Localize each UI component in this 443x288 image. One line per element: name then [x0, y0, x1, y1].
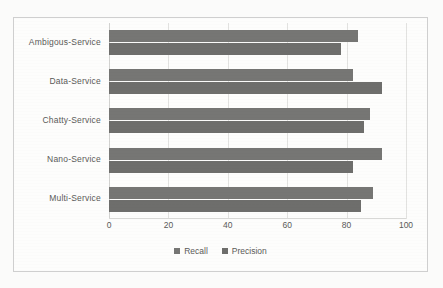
- bar-recall: [109, 69, 353, 81]
- x-axis-baseline: [109, 218, 406, 219]
- bar-precision: [109, 161, 353, 173]
- bar-group: Nano-Service: [109, 141, 406, 180]
- category-label: Data-Service: [49, 76, 101, 86]
- bar-precision: [109, 200, 361, 212]
- bar-recall: [109, 108, 370, 120]
- chart-frame: Ambigous-ServiceData-ServiceChatty-Servi…: [13, 17, 428, 272]
- category-label: Chatty-Service: [42, 115, 101, 125]
- x-tick-label: 60: [282, 220, 291, 230]
- legend-label: Recall: [184, 246, 208, 256]
- x-tick-label: 80: [342, 220, 351, 230]
- bar-group: Ambigous-Service: [109, 23, 406, 62]
- bar-precision: [109, 43, 341, 55]
- category-label: Multi-Service: [49, 193, 101, 203]
- plot-area: Ambigous-ServiceData-ServiceChatty-Servi…: [109, 23, 406, 219]
- bar-recall: [109, 148, 382, 160]
- x-tick-label: 0: [107, 220, 112, 230]
- bar-group: Data-Service: [109, 62, 406, 101]
- bar-recall: [109, 187, 373, 199]
- chart-legend: RecallPrecision: [14, 246, 427, 256]
- legend-swatch-icon: [174, 248, 180, 254]
- bar-recall: [109, 30, 358, 42]
- bar-precision: [109, 82, 382, 94]
- x-tick-label: 100: [399, 220, 413, 230]
- category-label: Nano-Service: [47, 154, 101, 164]
- legend-label: Precision: [232, 246, 267, 256]
- x-tick-label: 40: [223, 220, 232, 230]
- x-tick-label: 20: [164, 220, 173, 230]
- legend-swatch-icon: [222, 248, 228, 254]
- bar-precision: [109, 121, 364, 133]
- bar-group: Chatty-Service: [109, 101, 406, 140]
- bar-group: Multi-Service: [109, 180, 406, 219]
- legend-item[interactable]: Precision: [222, 246, 267, 256]
- legend-item[interactable]: Recall: [174, 246, 208, 256]
- category-label: Ambigous-Service: [29, 37, 101, 47]
- gridline: [406, 23, 407, 219]
